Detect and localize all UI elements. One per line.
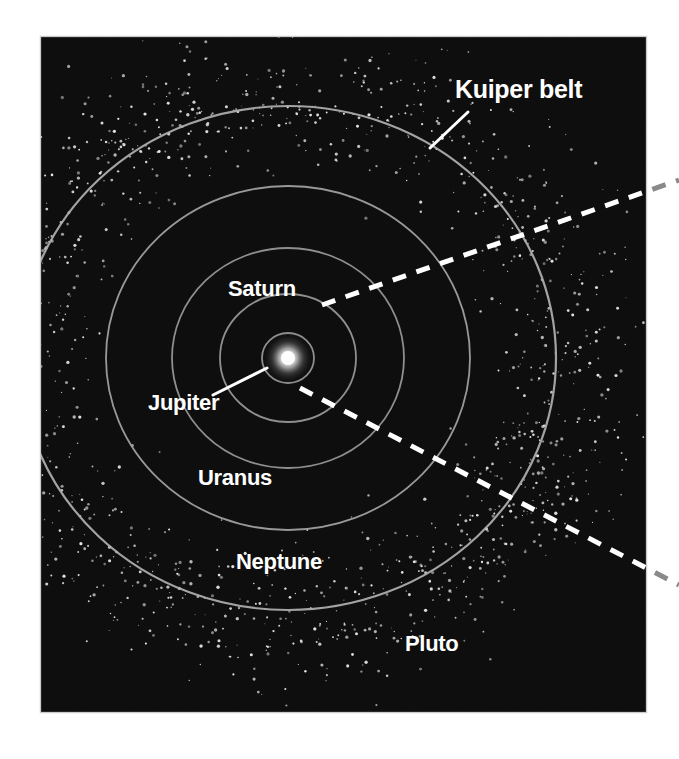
- uranus-label: Uranus: [198, 465, 272, 490]
- saturn-label: Saturn: [228, 276, 296, 301]
- kuiper-belt-callout: Kuiper belt: [455, 75, 583, 103]
- sun-core: [281, 351, 295, 365]
- pluto-label: Pluto: [405, 631, 459, 656]
- figure-canvas: Kuiper beltJupiterSaturnUranusNeptunePlu…: [0, 0, 679, 759]
- solar-system-figure: Kuiper beltJupiterSaturnUranusNeptunePlu…: [0, 0, 679, 759]
- jupiter-leader: Jupiter: [148, 390, 220, 415]
- neptune-label: Neptune: [236, 549, 322, 574]
- panel-group: Kuiper beltJupiterSaturnUranusNeptunePlu…: [20, 32, 679, 712]
